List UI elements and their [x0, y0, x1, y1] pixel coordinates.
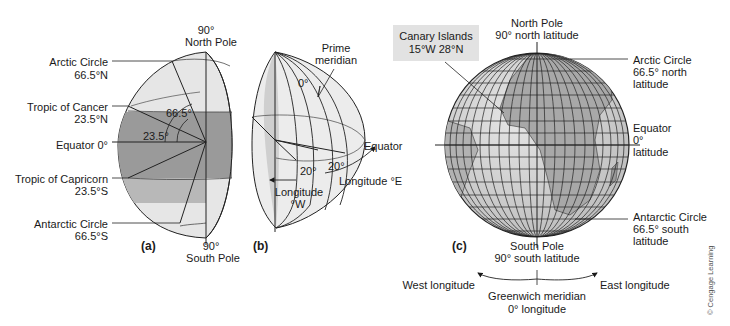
tropic-cancer-label: Tropic of Cancer: [27, 101, 108, 113]
north-pole-latitude-c: 90° north latitude: [495, 29, 578, 41]
south-pole-label-c: South Pole: [510, 240, 564, 252]
greenwich-meridian-label: Greenwich meridian: [488, 290, 586, 302]
tropic-capricorn-label: Tropic of Capricorn: [15, 173, 108, 185]
south-pole-degree-a: 90°: [203, 240, 220, 252]
canary-islands-name: Canary Islands: [399, 30, 473, 42]
latitude-longitude-diagram: 90° North Pole Arctic Circle 66.5°N Trop…: [0, 0, 730, 326]
prime-meridian-label-1: Prime: [322, 42, 351, 54]
west-longitude-label: West longitude: [402, 279, 475, 291]
angle-west-label: 20°: [300, 165, 317, 177]
equator-value-c: 0°: [633, 134, 644, 146]
panel-c-tag: (c): [452, 239, 467, 253]
canary-islands-coords: 15°W 28°N: [409, 43, 464, 55]
greenwich-longitude-label: 0° longitude: [508, 303, 566, 315]
tropic-capricorn-value: 23.5°S: [75, 185, 108, 197]
arctic-circle-label-c: Arctic Circle: [633, 54, 692, 66]
equator-label-a: Equator 0°: [56, 139, 108, 151]
antarctic-circle-label-a: Antarctic Circle: [34, 218, 108, 230]
antarctic-circle-unit-c: latitude: [633, 235, 668, 247]
prime-meridian-label-2: meridian: [315, 54, 357, 66]
angle-66-5-label: 66.5°: [166, 107, 192, 119]
arctic-circle-value-c: 66.5° north: [633, 66, 687, 78]
north-pole-degree-a: 90°: [198, 24, 215, 36]
copyright-credit: © Cengage Learning: [706, 246, 715, 315]
zero-degree-label: 0°: [298, 77, 309, 89]
antarctic-circle-label-c: Antarctic Circle: [633, 211, 707, 223]
angle-23-5-label: 23.5°: [143, 130, 169, 142]
south-pole-label-a: South Pole: [186, 252, 240, 264]
antarctic-circle-value-c: 66.5° south: [633, 223, 689, 235]
equator-label-b: Equator: [364, 140, 403, 152]
longitude-east-label: Longitude °E: [339, 175, 402, 187]
equator-label-c: Equator: [633, 122, 672, 134]
globe: [435, 42, 640, 248]
north-pole-label-c: North Pole: [511, 17, 563, 29]
north-pole-label-a: North Pole: [185, 36, 237, 48]
longitude-west-label-2: °W: [291, 198, 306, 210]
panel-b-tag: (b): [253, 239, 268, 253]
arctic-circle-unit-c: latitude: [633, 78, 668, 90]
antarctic-circle-value-a: 66.5°S: [75, 230, 108, 242]
angle-east-label: 20°: [328, 160, 345, 172]
arctic-circle-label-a: Arctic Circle: [49, 56, 108, 68]
longitude-west-label-1: Longitude: [275, 186, 323, 198]
panel-a-hemisphere: [110, 52, 240, 245]
east-longitude-label: East longitude: [600, 279, 670, 291]
tropic-cancer-value: 23.5°N: [74, 113, 108, 125]
panel-a-tag: (a): [141, 239, 156, 253]
equator-unit-c: latitude: [633, 146, 668, 158]
panel-b-hemisphere: [252, 52, 375, 232]
arctic-circle-value-a: 66.5°N: [74, 69, 108, 81]
south-pole-latitude-c: 90° south latitude: [494, 252, 579, 264]
